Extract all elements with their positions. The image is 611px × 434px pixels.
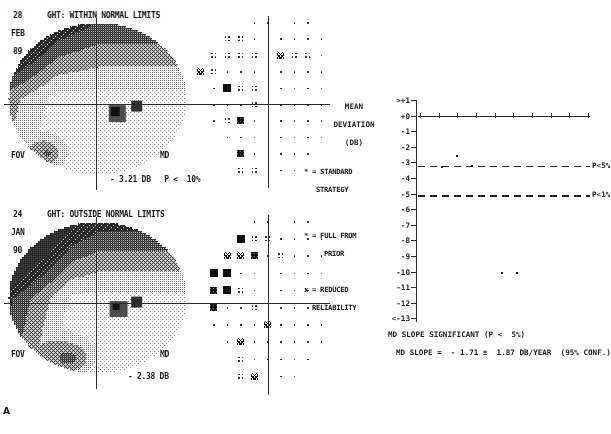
probability-cell <box>303 51 312 60</box>
probability-cell <box>263 337 272 346</box>
probability-symbol-dot <box>240 273 242 275</box>
chart-y-tick <box>411 287 416 288</box>
chart-y-tick-label: +0 <box>368 112 410 121</box>
probability-cell <box>236 133 245 142</box>
probability-cell <box>223 337 232 346</box>
probability-cell <box>263 18 272 27</box>
probability-symbol-quad <box>238 86 243 91</box>
probability-cell <box>276 51 285 60</box>
probability-cell <box>290 34 299 43</box>
probability-cell <box>236 51 245 60</box>
chart-y-tick <box>411 318 416 319</box>
probability-cell <box>209 84 218 93</box>
probability-cell <box>223 251 232 260</box>
probability-cell <box>250 337 259 346</box>
chart-y-tick-label: -3 <box>368 158 410 167</box>
probability-cell <box>263 251 272 260</box>
probability-cell <box>303 320 312 329</box>
probability-symbol-dot <box>294 376 296 378</box>
probability-cell <box>236 84 245 93</box>
chart-y-tick-label: >+1 <box>368 96 410 105</box>
probability-cell <box>209 320 218 329</box>
probability-symbol-quad <box>252 168 257 173</box>
probability-cell <box>276 320 285 329</box>
probability-symbol-dot <box>227 104 229 106</box>
probability-symbol-dot <box>240 71 242 73</box>
chart-y-tick-label: -4 <box>368 174 410 183</box>
report-top-md-label: MD <box>160 152 169 160</box>
probability-symbol-dot <box>294 341 296 343</box>
chart-baseline-tick <box>476 113 477 118</box>
chart-y-tick-label: -12 <box>368 299 410 308</box>
probability-symbol-dot <box>213 120 215 122</box>
chart-y-tick <box>411 209 416 210</box>
probability-symbol-dot <box>240 307 242 309</box>
probability-symbol-dot <box>227 137 229 139</box>
probability-cell <box>290 320 299 329</box>
probability-symbol-dot <box>267 255 269 257</box>
probability-symbol-dot <box>307 153 309 155</box>
chart-y-tick <box>411 116 416 117</box>
probability-symbol-dot <box>307 324 309 326</box>
chart-y-tick-label: -1 <box>368 127 410 136</box>
probability-symbol-dense <box>237 117 244 124</box>
probability-symbol-quad <box>265 236 270 241</box>
probability-symbol-dot <box>294 88 296 90</box>
probability-cell <box>317 84 326 93</box>
probability-symbol-quad <box>238 288 243 293</box>
probability-cell <box>236 355 245 364</box>
probability-symbol-dot <box>240 137 242 139</box>
chart-y-tick <box>411 131 416 132</box>
probability-symbol-solid <box>210 269 218 277</box>
probability-symbol-dot <box>307 38 309 40</box>
probability-symbol-hatch <box>237 338 244 345</box>
probability-cell <box>223 34 232 43</box>
probability-symbol-dot <box>294 22 296 24</box>
probability-cell <box>223 100 232 109</box>
chart-baseline-tick <box>532 113 533 118</box>
probability-cell <box>250 355 259 364</box>
probability-symbol-dot <box>280 324 282 326</box>
probability-symbol-dot <box>280 238 282 240</box>
probability-symbol-dot <box>321 55 323 57</box>
probability-cell <box>223 303 232 312</box>
probability-symbol-hatch <box>264 321 271 328</box>
chart-y-tick <box>411 303 416 304</box>
probability-symbol-dot <box>213 324 215 326</box>
chart-y-tick-label: -7 <box>368 221 410 230</box>
probability-symbol-dot <box>280 290 282 292</box>
probability-symbol-dot <box>321 71 323 73</box>
md-progression-chart: MEAN DEVIATION (DB) >+1+0-1-2-3-4-5-6-7-… <box>386 96 598 336</box>
probability-cell <box>317 320 326 329</box>
probability-cell <box>250 251 259 260</box>
figure-panel-label: A <box>3 406 10 416</box>
probability-cell <box>290 100 299 109</box>
probability-cell <box>303 116 312 125</box>
probability-cell <box>209 51 218 60</box>
probability-cell <box>276 269 285 278</box>
chart-reference-label-p5: P<5% <box>592 161 610 170</box>
probability-cell <box>250 217 259 226</box>
probability-symbol-solid <box>223 269 231 277</box>
probability-symbol-dot <box>254 137 256 139</box>
probability-cell <box>290 116 299 125</box>
probability-cell <box>263 217 272 226</box>
probability-symbol-dense <box>210 287 217 294</box>
chart-baseline-tick <box>439 113 440 118</box>
probability-cell <box>223 286 232 295</box>
probability-cell <box>209 67 218 76</box>
probability-cell <box>290 51 299 60</box>
probability-cell <box>209 100 218 109</box>
md-slope-significance: MD SLOPE SIGNIFICANT (P < 5%) <box>388 330 525 339</box>
probability-symbol-dot <box>294 104 296 106</box>
probability-symbol-solid <box>237 235 245 243</box>
probability-cell <box>276 234 285 243</box>
probability-cell <box>303 149 312 158</box>
probability-cell <box>223 269 232 278</box>
probability-symbol-dot <box>294 359 296 361</box>
probability-symbol-dot <box>254 290 256 292</box>
chart-baseline-tick <box>457 113 458 118</box>
probability-symbol-quad <box>292 53 297 58</box>
chart-y-tick <box>411 162 416 163</box>
probability-symbol-hatch <box>197 68 204 75</box>
